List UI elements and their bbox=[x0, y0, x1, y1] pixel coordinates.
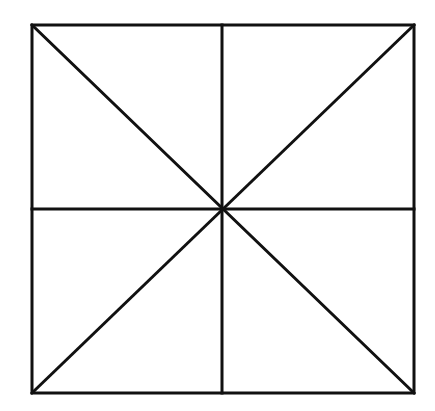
square-diagram bbox=[0, 0, 435, 411]
